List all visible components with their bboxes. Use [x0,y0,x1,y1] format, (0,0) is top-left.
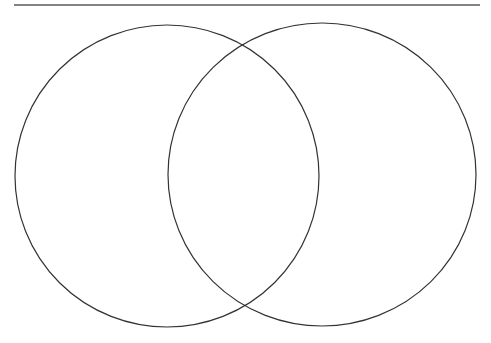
venn-diagram-page: Blank two-circle Venn diagram [0,0,491,343]
venn-diagram [0,0,491,343]
left-circle [15,25,319,327]
right-circle [168,23,476,326]
